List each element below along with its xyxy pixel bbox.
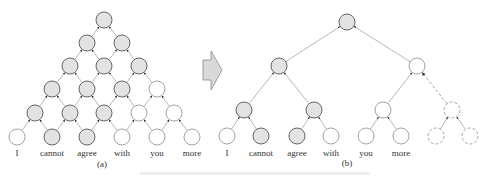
tree-node [114,35,130,51]
tree-node [149,129,165,145]
tree-edge [319,117,327,129]
tree-edge [284,73,309,104]
tree-edge [75,73,82,83]
tree-edge [92,27,99,37]
tree-edge [231,117,239,129]
word-label: with [114,148,131,158]
tree-edge [109,27,117,37]
tree-node [323,128,339,144]
tree-edge [144,73,152,83]
tree-edge [286,27,340,62]
panel-b-binary-tree: Icannotagreewithyoumore [219,14,478,158]
tree-node [79,81,95,97]
tree-node [27,105,43,121]
tree-edge [92,73,99,83]
tree-node [236,102,252,118]
tree-node [79,35,95,51]
tree-node [358,128,374,144]
tree-edge [109,120,117,131]
tree-node [428,128,444,144]
tree-edge [57,96,65,107]
word-label: I [226,148,229,158]
panel-a-pyramid: Icannotagreewithyoumore [9,12,201,158]
tree-node [149,81,165,97]
tree-node [219,128,235,144]
tree-node [462,128,478,144]
tree-edge [109,73,117,83]
tree-edge [57,73,65,83]
word-label: with [323,148,340,158]
tree-node [375,102,391,118]
tree-edge [440,117,447,129]
tree-node [289,128,305,144]
tree-edge [144,96,152,107]
tree-edge [370,117,378,129]
word-label: you [150,148,164,158]
tree-edge [162,96,169,107]
tree-edge [127,50,134,60]
tree-diagram: Icannotagreewithyoumore Icannotagreewith… [0,0,489,178]
tree-node [96,12,112,28]
tree-node [79,129,95,145]
tree-edge [92,96,99,107]
word-label: more [392,148,411,158]
tree-edge [127,73,134,83]
tree-edge [109,50,117,60]
tree-node [271,58,287,74]
tree-edge [179,120,187,131]
tree-node [44,81,60,97]
tree-edge [92,50,99,60]
tree-node [253,128,269,144]
tree-edge [127,96,134,107]
tree-edge [40,96,47,107]
tree-node [393,128,409,144]
tree-edge [457,117,466,129]
tree-node [114,81,130,97]
tree-node [166,105,182,121]
word-label: you [359,148,373,158]
tree-edge [92,120,99,131]
tree-edge [75,50,82,60]
tree-edge [422,73,447,104]
word-label: cannot [249,148,273,158]
tree-edge [22,120,30,131]
tree-node [114,129,130,145]
transform-arrow-icon [203,51,222,90]
tree-node [96,105,112,121]
word-label: I [16,148,19,158]
word-label: cannot [40,148,64,158]
tree-node [44,129,60,145]
word-label: agree [77,148,96,158]
figure-caption-blurred [140,172,370,175]
tree-edge [57,120,65,131]
panel-b-caption: (b) [342,158,353,168]
tree-node [339,14,355,30]
tree-edge [109,96,117,107]
tree-node [96,58,112,74]
tree-edge [75,96,82,107]
tree-node [444,102,460,118]
tree-edge [388,117,397,129]
tree-node [131,58,147,74]
tree-edge [249,73,274,104]
panel-a-caption: (a) [97,159,107,169]
tree-edge [354,27,410,62]
tree-node [131,105,147,121]
tree-node [409,58,425,74]
tree-node [62,58,78,74]
tree-node [184,129,200,145]
tree-edge [249,117,257,129]
tree-edge [127,120,134,131]
tree-edge [162,120,169,131]
tree-edge [388,73,412,104]
tree-node [9,129,25,145]
word-label: more [183,148,202,158]
tree-edge [144,120,152,131]
tree-edge [40,120,47,131]
tree-edge [75,120,82,131]
word-label: agree [287,148,306,158]
tree-node [306,102,322,118]
tree-edge [301,117,309,129]
tree-node [62,105,78,121]
